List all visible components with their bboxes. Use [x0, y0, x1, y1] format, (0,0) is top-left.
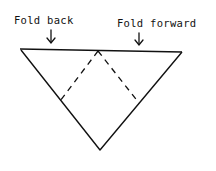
- fold-forward-arrow-icon: [135, 33, 143, 45]
- fold-lines-dashed: [60, 51, 139, 103]
- fold-back-arrow-icon: [47, 30, 55, 43]
- fold-diagram: [0, 0, 216, 171]
- triangle-outline: [20, 49, 182, 150]
